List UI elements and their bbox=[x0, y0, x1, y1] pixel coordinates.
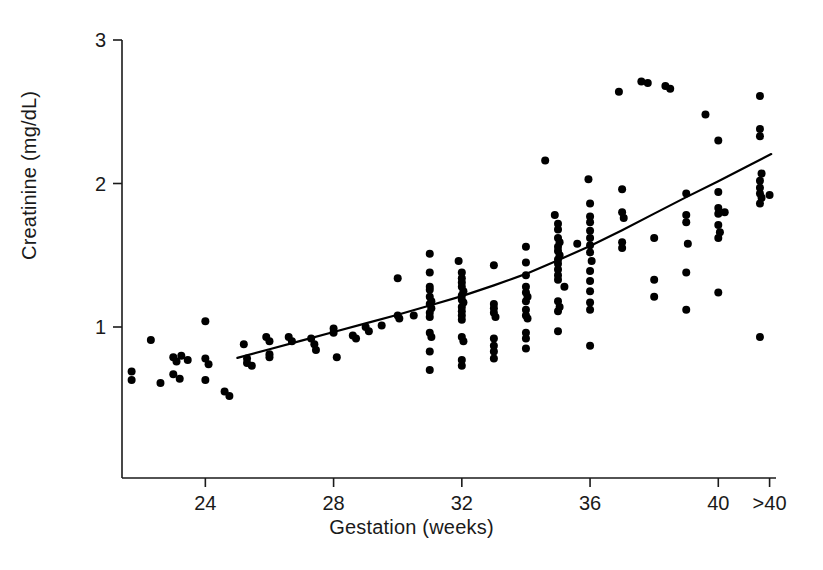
scatter-point bbox=[586, 241, 594, 249]
x-axis-title: Gestation (weeks) bbox=[0, 516, 823, 539]
scatter-point bbox=[426, 366, 434, 374]
scatter-point bbox=[756, 92, 764, 100]
scatter-point bbox=[156, 379, 164, 387]
scatter-point bbox=[288, 337, 296, 345]
scatter-point bbox=[586, 299, 594, 307]
scatter-point bbox=[378, 322, 386, 330]
scatter-point bbox=[395, 314, 403, 322]
scatter-point bbox=[201, 376, 209, 384]
scatter-point bbox=[701, 111, 709, 119]
scatter-point bbox=[615, 88, 623, 96]
scatter-point bbox=[490, 334, 498, 342]
scatter-point bbox=[426, 268, 434, 276]
scatter-point bbox=[522, 271, 530, 279]
fit-curve bbox=[237, 154, 771, 358]
scatter-point bbox=[265, 337, 273, 345]
scatter-point bbox=[560, 283, 568, 291]
scatter-point bbox=[147, 336, 155, 344]
scatter-point bbox=[618, 244, 626, 252]
scatter-point bbox=[721, 208, 729, 216]
scatter-point bbox=[586, 287, 594, 295]
scatter-point bbox=[554, 225, 562, 233]
scatter-point bbox=[248, 362, 256, 370]
y-axis-title: Creatinine (mg/dL) bbox=[18, 91, 41, 260]
scatter-point bbox=[426, 250, 434, 258]
scatter-point bbox=[225, 392, 233, 400]
scatter-point bbox=[758, 169, 766, 177]
y-tick-label-3: 3 bbox=[95, 29, 106, 51]
scatter-point bbox=[491, 313, 499, 321]
x-tick-label-40: 40 bbox=[707, 492, 729, 514]
scatter-point bbox=[682, 268, 690, 276]
scatter-point bbox=[554, 276, 562, 284]
scatter-plot-figure: 123 2428323640>40 Gestation (weeks) Crea… bbox=[0, 0, 823, 570]
axis-lines bbox=[122, 40, 776, 478]
scatter-point bbox=[714, 188, 722, 196]
scatter-point bbox=[205, 360, 213, 368]
scatter-point bbox=[666, 85, 674, 93]
scatter-point bbox=[682, 306, 690, 314]
scatter-point bbox=[682, 211, 690, 219]
scatter-point bbox=[201, 317, 209, 325]
scatter-point bbox=[490, 261, 498, 269]
scatter-point bbox=[586, 306, 594, 314]
scatter-point bbox=[682, 218, 690, 226]
scatter-point bbox=[588, 257, 596, 265]
scatter-point bbox=[756, 333, 764, 341]
scatter-point bbox=[394, 274, 402, 282]
scatter-point bbox=[522, 243, 530, 251]
scatter-point bbox=[684, 240, 692, 248]
scatter-point bbox=[644, 79, 652, 87]
scatter-point bbox=[650, 234, 658, 242]
scatter-point bbox=[312, 346, 320, 354]
scatter-point bbox=[586, 234, 594, 242]
scatter-point bbox=[586, 218, 594, 226]
x-tick-label-32: 32 bbox=[451, 492, 473, 514]
y-tick-label-1: 1 bbox=[95, 316, 106, 338]
scatter-point bbox=[584, 175, 592, 183]
scatter-point bbox=[586, 277, 594, 285]
scatter-point bbox=[554, 327, 562, 335]
scatter-point bbox=[352, 334, 360, 342]
scatter-point bbox=[586, 267, 594, 275]
scatter-point bbox=[522, 345, 530, 353]
scatter-point bbox=[128, 376, 136, 384]
y-axis-ticks: 123 bbox=[95, 29, 122, 338]
scatter-point bbox=[522, 258, 530, 266]
scatter-point bbox=[128, 367, 136, 375]
scatter-point bbox=[426, 347, 434, 355]
scatter-point bbox=[586, 227, 594, 235]
scatter-point bbox=[573, 240, 581, 248]
scatter-point bbox=[240, 340, 248, 348]
scatter-point bbox=[524, 314, 532, 322]
scatter-point bbox=[714, 289, 722, 297]
scatter-point bbox=[756, 132, 764, 140]
scatter-point bbox=[618, 185, 626, 193]
scatter-point bbox=[756, 177, 764, 185]
scatter-point bbox=[586, 200, 594, 208]
scatter-point bbox=[522, 334, 530, 342]
scatter-point bbox=[365, 327, 373, 335]
scatter-point bbox=[176, 375, 184, 383]
scatter-point bbox=[333, 353, 341, 361]
scatter-point bbox=[766, 191, 774, 199]
scatter-point bbox=[490, 347, 498, 355]
scatter-point bbox=[541, 157, 549, 165]
scatter-point bbox=[265, 353, 273, 361]
fit-curve-path bbox=[237, 154, 771, 358]
scatter-point bbox=[714, 221, 722, 229]
scatter-point bbox=[714, 234, 722, 242]
scatter-point bbox=[490, 355, 498, 363]
x-tick-label-24: 24 bbox=[194, 492, 216, 514]
scatter-point bbox=[522, 297, 530, 305]
scatter-point bbox=[330, 329, 338, 337]
x-tick-label-28: 28 bbox=[322, 492, 344, 514]
scatter-point bbox=[458, 316, 466, 324]
scatter-point bbox=[714, 136, 722, 144]
scatter-point bbox=[426, 286, 434, 294]
x-tick-label-gt40: >40 bbox=[753, 492, 787, 514]
scatter-point bbox=[586, 342, 594, 350]
scatter-point bbox=[586, 248, 594, 256]
scatter-point bbox=[410, 312, 418, 320]
scatter-point bbox=[459, 337, 467, 345]
